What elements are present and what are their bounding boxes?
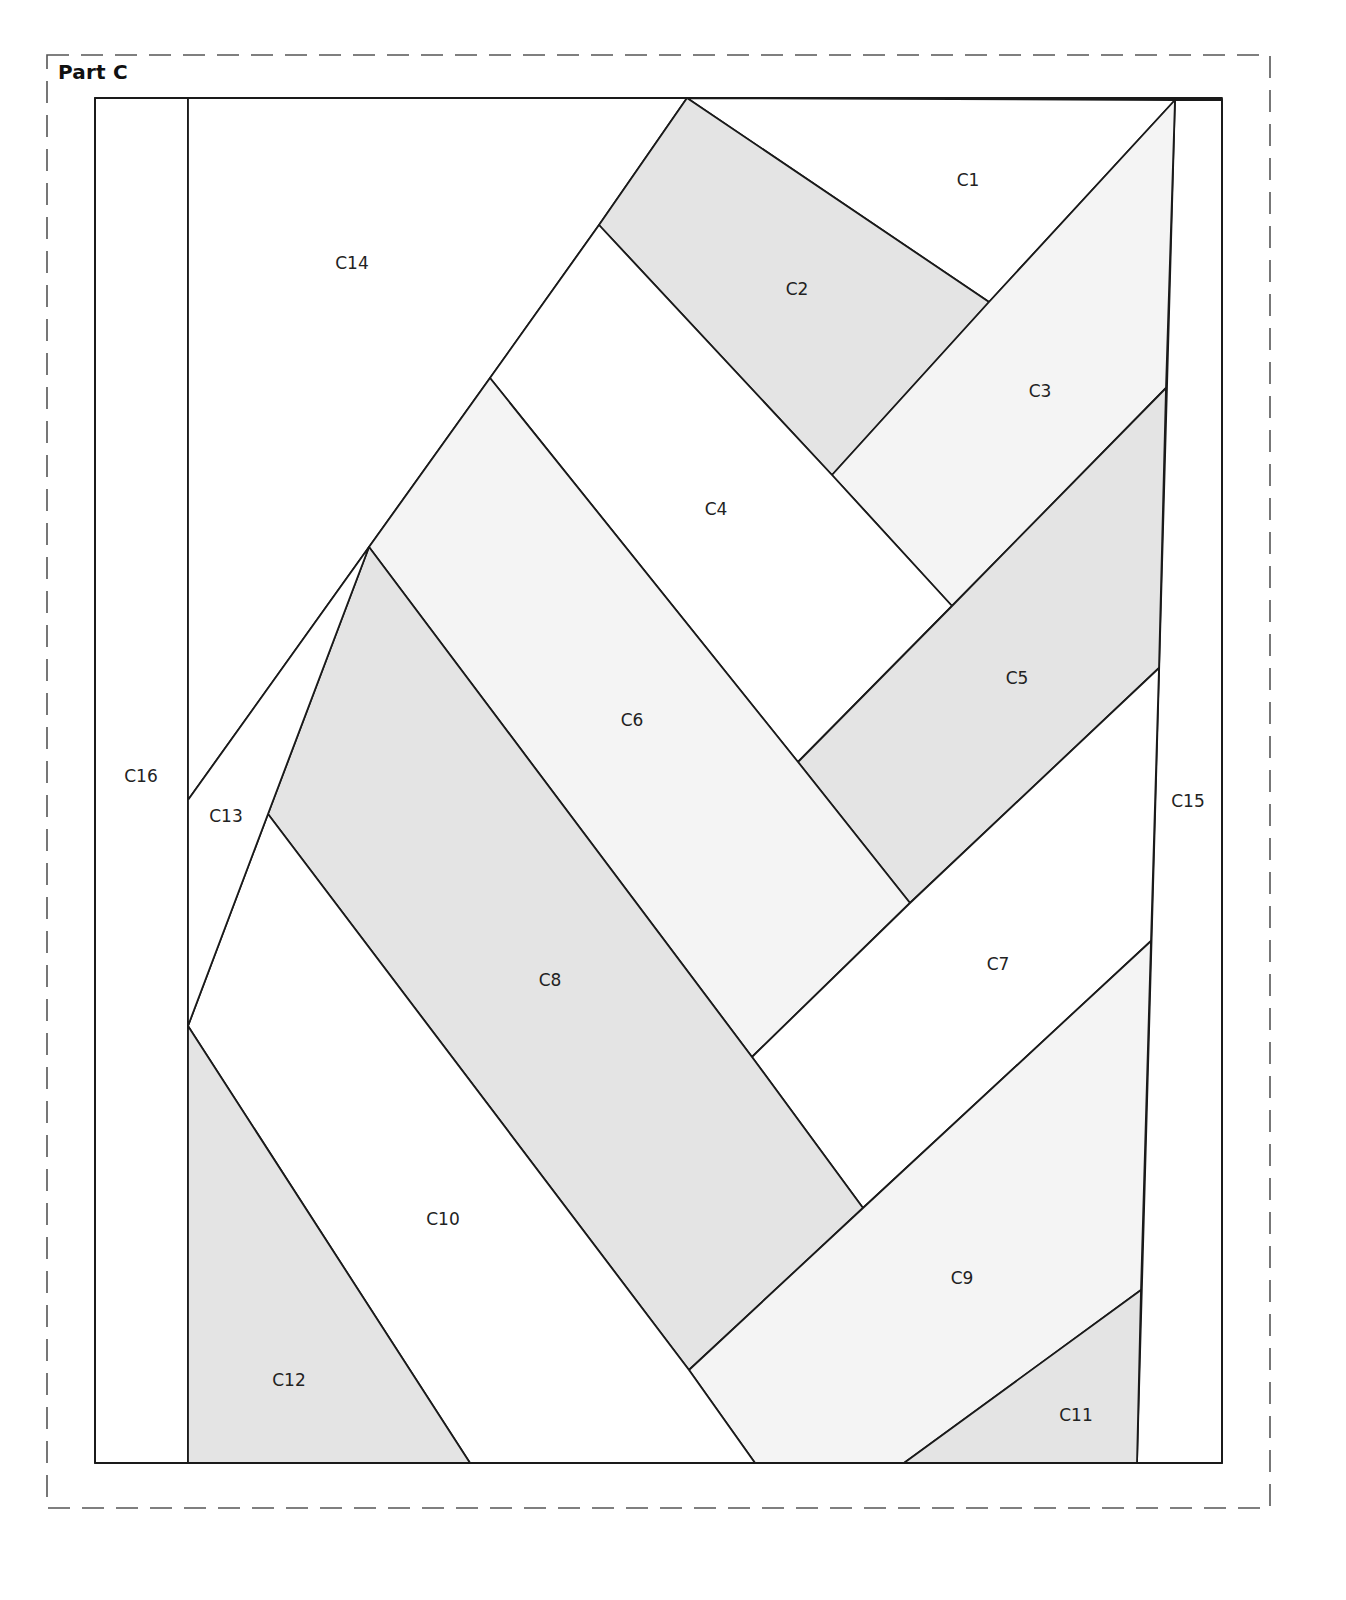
label-c16: C16 [124, 766, 158, 786]
label-c14: C14 [335, 253, 369, 273]
label-c10: C10 [426, 1209, 460, 1229]
label-c15: C15 [1171, 791, 1205, 811]
pattern-diagram: C1 C2 C3 C4 C5 C6 C7 C8 C9 C10 C11 C12 C… [0, 0, 1346, 1600]
label-c3: C3 [1029, 381, 1052, 401]
label-c5: C5 [1006, 668, 1029, 688]
label-c2: C2 [786, 279, 809, 299]
label-c9: C9 [951, 1268, 974, 1288]
label-c11: C11 [1059, 1405, 1093, 1425]
label-c12: C12 [272, 1370, 306, 1390]
label-c4: C4 [705, 499, 728, 519]
label-c8: C8 [539, 970, 562, 990]
label-c13: C13 [209, 806, 243, 826]
label-c6: C6 [621, 710, 644, 730]
label-c1: C1 [957, 170, 980, 190]
label-c7: C7 [987, 954, 1010, 974]
